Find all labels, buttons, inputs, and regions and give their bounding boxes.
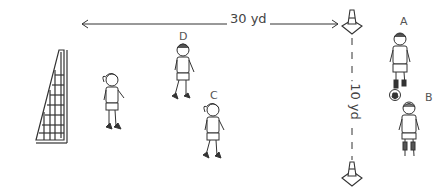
player-a-figure [390,33,410,88]
goal-icon [36,50,67,143]
cone-top-icon [342,10,362,34]
distance-label-vertical: 10 yd [349,81,362,122]
player-d-figure [172,44,194,99]
player-a-label: A [400,16,408,27]
cone-bottom-icon [342,162,362,186]
player-b-label: B [425,92,433,103]
soccer-ball-icon [390,90,401,101]
distance-label-horizontal: 30 yd [227,12,270,25]
player-c-figure [203,103,224,158]
player-unlabeled-figure [103,73,124,129]
soccer-drill-diagram [0,0,443,191]
player-b-figure [399,102,419,156]
player-c-label: C [210,90,218,101]
player-d-label: D [179,31,187,42]
distance-arrow-horizontal [82,20,338,28]
